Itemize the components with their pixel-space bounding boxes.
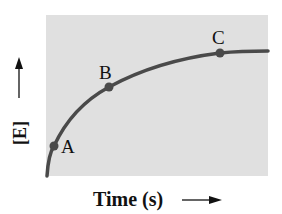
chart-svg: A B C [E] Time (s) <box>0 0 282 214</box>
y-axis-arrow-icon <box>15 57 23 98</box>
y-axis-label: [E] <box>10 121 30 145</box>
plot-area <box>46 15 268 176</box>
point-b-label: B <box>99 62 112 83</box>
point-c-marker <box>216 49 225 58</box>
point-c-label: C <box>212 27 225 48</box>
x-axis-label: Time (s) <box>93 188 163 211</box>
point-b-marker <box>105 83 114 92</box>
chart-canvas: A B C [E] Time (s) <box>0 0 282 214</box>
x-axis-arrow-icon <box>182 196 222 204</box>
point-a-marker <box>50 142 59 151</box>
point-a-label: A <box>61 136 75 157</box>
